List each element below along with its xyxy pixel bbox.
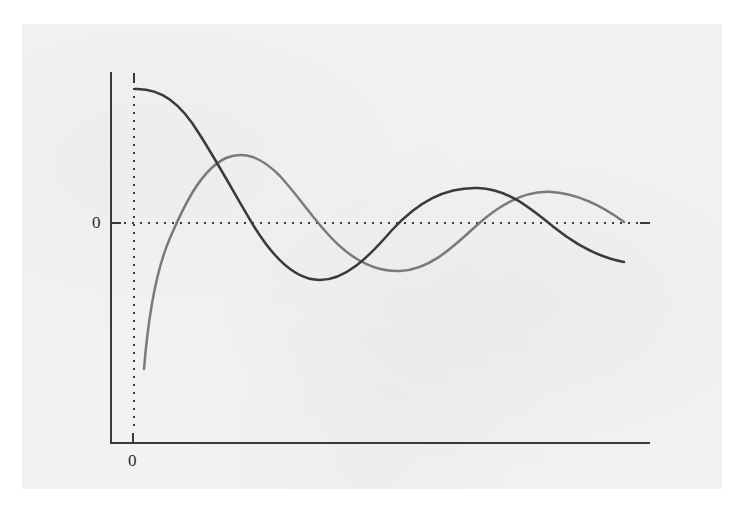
line-chart [0,0,741,512]
y-axis-zero-label: 0 [92,214,101,231]
dark-curve [135,89,624,280]
x-axis-zero-label: 0 [128,452,137,469]
light-curve [144,155,624,369]
